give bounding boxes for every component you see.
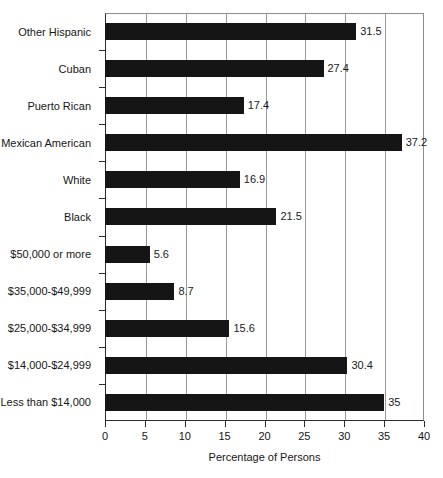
x-axis-tick-label: 35 [369,429,399,443]
category-label: Cuban [0,62,100,76]
bar-value-label: 37.2 [402,133,427,151]
bar-value-label: 35 [384,393,400,411]
y-axis-tick [99,384,105,385]
x-axis-tick-label: 20 [250,429,280,443]
y-axis-tick [99,50,105,51]
y-axis-tick [99,347,105,348]
x-axis-tick [344,421,345,427]
x-axis-tick-label: 0 [90,429,120,443]
bar [105,134,402,151]
x-axis-tick-label: 5 [130,429,160,443]
category-label: $14,000-$24,999 [0,358,100,372]
category-label: Black [0,210,100,224]
bar [105,394,384,411]
bar-value-label: 17.4 [244,96,269,114]
category-label: White [0,173,100,187]
category-label: Mexican American [0,136,100,150]
bar-chart: 31.527.417.437.216.921.55.68.715.630.435… [0,0,443,478]
category-label: Less than $14,000 [0,395,100,409]
y-axis-tick [99,310,105,311]
bar-value-label: 8.7 [174,282,193,300]
bar [105,60,324,77]
x-axis-tick-label: 15 [210,429,240,443]
bar [105,97,244,114]
x-axis-tick [384,421,385,427]
x-axis-tick [225,421,226,427]
bar-value-label: 15.6 [229,319,254,337]
x-axis-tick-label: 30 [329,429,359,443]
bar-row: 31.5 [105,13,424,50]
category-label: $25,000-$34,999 [0,321,100,335]
x-axis-tick [265,421,266,427]
x-axis-tick [185,421,186,427]
bar [105,208,276,225]
category-label: Puerto Rican [0,99,100,113]
bar-row: 35 [105,384,424,421]
bar-value-label: 27.4 [324,59,349,77]
bar-row: 37.2 [105,124,424,161]
bar [105,357,347,374]
bar-value-label: 31.5 [356,22,381,40]
x-axis-tick [424,421,425,427]
x-axis-title: Percentage of Persons [105,451,424,463]
bar [105,320,229,337]
bar-row: 5.6 [105,236,424,273]
x-axis-tick [105,421,106,427]
y-axis-tick [99,236,105,237]
x-axis-tick [145,421,146,427]
bar-row: 21.5 [105,198,424,235]
bar [105,283,174,300]
bar-row: 30.4 [105,347,424,384]
y-axis-tick [99,124,105,125]
x-axis-tick-label: 40 [409,429,439,443]
bar-value-label: 30.4 [347,356,372,374]
bar-row: 8.7 [105,273,424,310]
x-axis-tick-label: 10 [170,429,200,443]
bar-row: 27.4 [105,50,424,87]
y-axis-tick [99,87,105,88]
y-axis-tick [99,198,105,199]
x-axis-tick-label: 25 [289,429,319,443]
bar-value-label: 16.9 [240,170,265,188]
bar [105,171,240,188]
bar-value-label: 5.6 [150,245,169,263]
y-axis-tick [99,273,105,274]
x-axis-tick [304,421,305,427]
bar-row: 15.6 [105,310,424,347]
bar-value-label: 21.5 [276,207,301,225]
y-axis-tick [99,161,105,162]
bars-layer: 31.527.417.437.216.921.55.68.715.630.435 [105,13,424,421]
bar [105,23,356,40]
category-label: $35,000-$49,999 [0,284,100,298]
bar [105,246,150,263]
bar-row: 17.4 [105,87,424,124]
category-label: $50,000 or more [0,247,100,261]
category-axis-labels: Other HispanicCubanPuerto RicanMexican A… [0,13,100,421]
bar-row: 16.9 [105,161,424,198]
category-label: Other Hispanic [0,25,100,39]
